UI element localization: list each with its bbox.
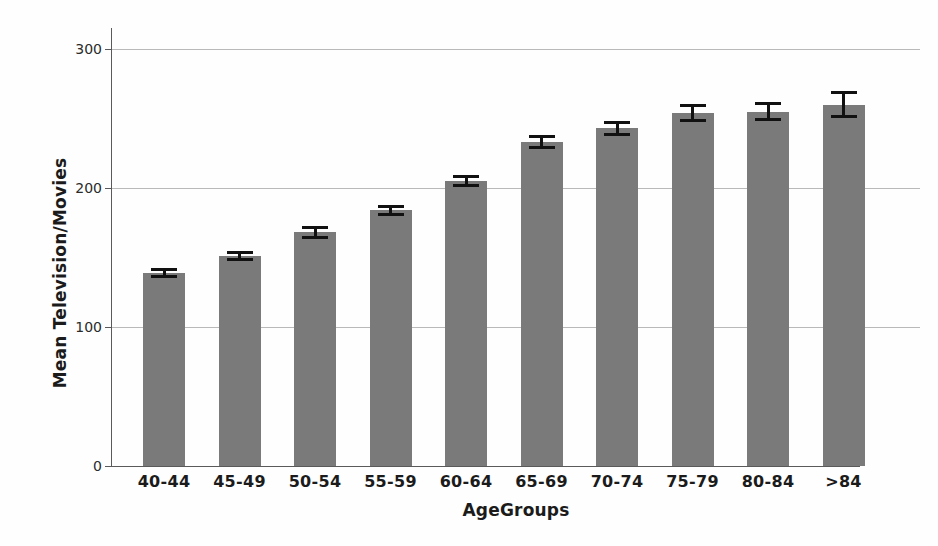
error-bar: [604, 121, 630, 136]
axis-baseline: [112, 466, 860, 467]
error-bar: [227, 251, 253, 261]
error-bar-cap-top: [378, 205, 404, 208]
x-tick-label: 45-49: [213, 472, 266, 491]
error-bar-cap-top: [453, 175, 479, 178]
error-bar: [151, 268, 177, 278]
y-tick-mark: [105, 49, 112, 50]
error-bar: [453, 175, 479, 188]
bar: [370, 210, 412, 466]
error-bar-cap-bottom: [755, 118, 781, 121]
x-tick-label: 60-64: [440, 472, 493, 491]
bar: [521, 142, 563, 466]
error-bar-cap-top: [755, 102, 781, 105]
error-bar-cap-bottom: [680, 119, 706, 122]
bar: [143, 273, 185, 466]
error-bar-cap-top: [680, 104, 706, 107]
gridline: [112, 188, 920, 189]
error-bar: [680, 104, 706, 122]
y-tick-label: 200: [44, 180, 102, 196]
bar-chart-figure: Mean Television/Movies 0100200300 40-444…: [0, 0, 938, 546]
error-bar-cap-bottom: [227, 258, 253, 261]
x-tick-label: 55-59: [364, 472, 417, 491]
x-tick-label: 80-84: [742, 472, 795, 491]
error-bar-cap-top: [302, 226, 328, 229]
error-bar-cap-bottom: [302, 236, 328, 239]
x-tick-label: 40-44: [138, 472, 191, 491]
y-tick-mark: [105, 188, 112, 189]
error-bar-cap-bottom: [529, 146, 555, 149]
error-bar-cap-top: [831, 91, 857, 94]
y-tick-mark: [105, 327, 112, 328]
error-bar-cap-bottom: [831, 115, 857, 118]
y-tick-mark: [105, 466, 112, 467]
y-tick-label: 300: [44, 41, 102, 57]
x-tick-label: >84: [825, 472, 862, 491]
gridline: [112, 49, 920, 50]
error-bar-cap-top: [529, 135, 555, 138]
bar: [823, 105, 865, 466]
error-bar-cap-top: [227, 251, 253, 254]
bar: [294, 232, 336, 466]
x-tick-label: 75-79: [666, 472, 719, 491]
y-tick-label: 100: [44, 319, 102, 335]
error-bar: [755, 102, 781, 121]
x-axis-title: AgeGroups: [112, 500, 920, 520]
error-bar: [529, 135, 555, 149]
error-bar-cap-bottom: [378, 213, 404, 216]
bar: [219, 256, 261, 466]
x-tick-label: 70-74: [591, 472, 644, 491]
bar: [672, 113, 714, 466]
error-bar-cap-bottom: [151, 275, 177, 278]
error-bar-cap-top: [604, 121, 630, 124]
error-bar: [302, 226, 328, 239]
plot-area: [112, 49, 920, 466]
x-tick-label: 50-54: [289, 472, 342, 491]
bar: [596, 128, 638, 466]
x-tick-label: 65-69: [515, 472, 568, 491]
error-bar-cap-bottom: [453, 184, 479, 187]
bar: [747, 112, 789, 466]
error-bar: [831, 91, 857, 117]
error-bar: [378, 205, 404, 216]
error-bar-cap-top: [151, 268, 177, 271]
bar: [445, 181, 487, 466]
error-bar-cap-bottom: [604, 133, 630, 136]
y-tick-label: 0: [44, 458, 102, 474]
